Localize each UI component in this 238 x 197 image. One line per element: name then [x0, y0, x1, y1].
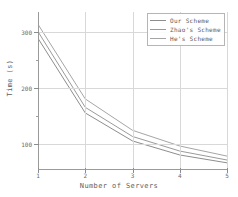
legend-item: Zhao's Scheme — [150, 25, 221, 34]
x-tick-label: 1 — [36, 172, 40, 179]
x-tick-label: 3 — [131, 172, 135, 179]
legend-color-swatch — [150, 38, 166, 39]
x-tick-label: 2 — [83, 172, 87, 179]
y-tick-mark — [34, 32, 39, 33]
legend-color-swatch — [150, 20, 166, 21]
legend-item-label: Zhao's Scheme — [170, 26, 221, 33]
legend-item: Our Scheme — [150, 16, 221, 25]
legend: Our Scheme Zhao's Scheme He's Scheme — [147, 13, 225, 46]
y-tick-mark — [34, 88, 39, 89]
x-tick-label: 4 — [178, 172, 182, 179]
y-axis-title: Time (s) — [6, 48, 14, 108]
y-tick-mark — [34, 144, 39, 145]
line-chart: 12345 100200300 Number of Servers Time (… — [0, 0, 238, 197]
gridline-vertical — [133, 12, 134, 169]
y-tick-minor — [36, 60, 39, 61]
x-axis-title: Number of Servers — [0, 182, 238, 190]
gridline-vertical — [85, 12, 86, 169]
legend-color-swatch — [150, 29, 166, 30]
x-axis-line — [38, 169, 227, 170]
y-tick-minor — [36, 116, 39, 117]
x-tick-label: 5 — [225, 172, 229, 179]
legend-item: He's Scheme — [150, 34, 221, 43]
legend-item-label: Our Scheme — [170, 17, 209, 24]
legend-item-label: He's Scheme — [170, 35, 213, 42]
gridline-vertical — [227, 12, 228, 169]
